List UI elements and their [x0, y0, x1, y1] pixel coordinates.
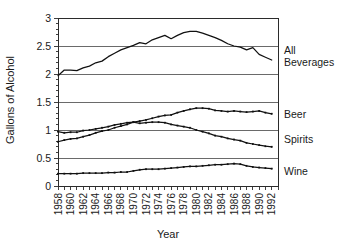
x-tick-label: 1970	[128, 193, 139, 216]
series-marker	[202, 165, 204, 167]
series-marker	[145, 119, 147, 121]
x-tick-label: 1964	[90, 193, 101, 216]
x-tick-label: 1978	[178, 193, 189, 216]
series-marker	[258, 110, 260, 112]
series-marker	[139, 122, 141, 124]
series-marker	[164, 122, 166, 124]
series-marker	[158, 121, 160, 123]
series-marker	[177, 112, 179, 114]
series-marker	[252, 143, 254, 145]
series-label-all-beverages: Beverages	[284, 56, 334, 68]
series-marker	[57, 141, 59, 143]
series-marker	[120, 125, 122, 127]
series-marker	[208, 108, 210, 110]
series-marker	[120, 123, 122, 125]
series-marker	[221, 164, 223, 166]
series-marker	[170, 124, 172, 126]
series-marker	[170, 114, 172, 116]
series-marker	[151, 168, 153, 170]
series-marker	[246, 142, 248, 144]
series-marker	[63, 173, 65, 175]
series-marker	[202, 107, 204, 109]
series-label-all-beverages: All	[284, 44, 296, 56]
series-marker	[233, 139, 235, 141]
series-label-wine: Wine	[284, 165, 308, 177]
x-axis-ticks	[58, 186, 278, 190]
series-marker	[89, 172, 91, 174]
series-label-spirits: Spirits	[284, 133, 313, 145]
series-marker	[70, 131, 72, 133]
series-marker	[82, 172, 84, 174]
series-marker	[164, 115, 166, 117]
series-marker	[126, 171, 128, 173]
series-marker	[202, 131, 204, 133]
series-marker	[214, 135, 216, 137]
series-label-beer: Beer	[284, 108, 307, 120]
series-marker	[227, 111, 229, 113]
series-marker	[265, 145, 267, 147]
x-tick-label: 1992	[266, 193, 277, 216]
y-axis-ticks	[54, 18, 59, 186]
series-marker	[208, 164, 210, 166]
series-marker	[107, 129, 109, 131]
series-marker	[114, 127, 116, 129]
y-tick-label: 0	[45, 180, 51, 192]
series-marker	[271, 113, 273, 115]
series-marker	[95, 128, 97, 130]
series-marker	[246, 111, 248, 113]
chart-container: 00.511.522.53 19581960196219641966196819…	[0, 0, 355, 246]
series-marker	[227, 163, 229, 165]
series-marker	[76, 131, 78, 133]
x-tick-label: 1974	[153, 193, 164, 216]
series-marker	[258, 144, 260, 146]
series-marker	[227, 138, 229, 140]
series-marker	[195, 107, 197, 109]
series-marker	[151, 117, 153, 119]
series-marker	[107, 172, 109, 174]
series-marker	[164, 168, 166, 170]
x-tick-label: 1984	[216, 193, 227, 216]
series-marker	[139, 120, 141, 122]
series-marker	[265, 167, 267, 169]
series-marker	[170, 167, 172, 169]
series-marker	[133, 170, 135, 172]
x-tick-label: 1960	[65, 193, 76, 216]
series-marker	[189, 108, 191, 110]
x-axis-title: Year	[157, 228, 180, 240]
y-axis-tick-labels: 00.511.522.53	[36, 12, 51, 192]
x-tick-label: 1982	[203, 193, 214, 216]
series-marker	[195, 166, 197, 168]
series-marker	[214, 110, 216, 112]
x-tick-label: 1962	[78, 193, 89, 216]
series-marker	[183, 166, 185, 168]
x-tick-label: 1966	[103, 193, 114, 216]
alcohol-consumption-line-chart: 00.511.522.53 19581960196219641966196819…	[0, 0, 355, 246]
series-marker	[101, 127, 103, 129]
series-marker	[101, 172, 103, 174]
x-tick-label: 1986	[229, 193, 240, 216]
series-marker	[70, 173, 72, 175]
series-marker	[183, 110, 185, 112]
series-marker	[82, 136, 84, 138]
series-marker	[177, 167, 179, 169]
x-tick-label: 1972	[141, 193, 152, 216]
series-marker	[126, 122, 128, 124]
y-tick-label: 0.5	[36, 152, 51, 164]
series-marker	[246, 165, 248, 167]
x-tick-label: 1976	[166, 193, 177, 216]
series-marker	[183, 126, 185, 128]
series-marker	[126, 124, 128, 126]
series-marker	[208, 132, 210, 134]
series-marker	[239, 111, 241, 113]
x-axis-tick-labels: 1958196019621964196619681970197219741976…	[53, 193, 278, 216]
series-marker	[63, 139, 65, 141]
series-inline-labels: AllBeveragesBeerSpiritsWine	[284, 44, 334, 176]
x-tick-label: 1988	[241, 193, 252, 216]
series-marker	[265, 112, 267, 114]
y-tick-label: 2	[45, 68, 51, 80]
y-tick-label: 1.5	[36, 96, 51, 108]
series-marker	[76, 173, 78, 175]
series-marker	[151, 121, 153, 123]
series-marker	[221, 136, 223, 138]
series-marker	[258, 167, 260, 169]
